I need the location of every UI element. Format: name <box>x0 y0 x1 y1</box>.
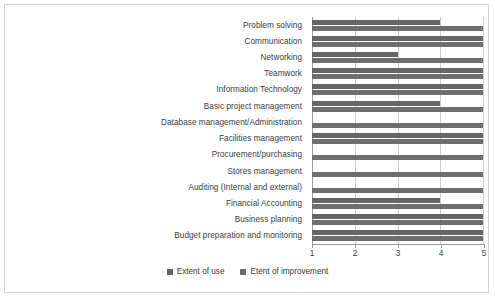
bar-extent-of-improvement <box>312 42 483 47</box>
bar-extent-of-use <box>312 230 483 235</box>
bar-group <box>312 17 483 33</box>
bar-extent-of-use <box>312 20 440 25</box>
bar-extent-of-use <box>312 198 440 203</box>
legend-label: Etent of improvement <box>250 267 328 276</box>
bar-group <box>312 228 483 244</box>
chart-container: Problem solvingCommunicationNetworkingTe… <box>4 4 489 293</box>
category-label: Basic project management <box>204 102 302 111</box>
category-label: Stores management <box>227 167 302 176</box>
bar-extent-of-improvement <box>312 107 483 112</box>
x-tickmark <box>441 244 442 248</box>
category-label-row: Teamwork <box>7 66 307 82</box>
category-label: Information Technology <box>216 85 302 94</box>
category-label: Problem solving <box>243 21 302 30</box>
category-axis-labels: Problem solvingCommunicationNetworkingTe… <box>7 17 307 244</box>
legend-label: Extent of use <box>177 267 225 276</box>
x-tickmark <box>398 244 399 248</box>
bar-group <box>312 147 483 163</box>
bar-group <box>312 49 483 65</box>
bar-group <box>312 131 483 147</box>
category-label-row: Facilities management <box>7 131 307 147</box>
bar-extent-of-improvement <box>312 220 483 225</box>
category-label-row: Information Technology <box>7 82 307 98</box>
category-label-row: Problem solving <box>7 17 307 33</box>
bar-extent-of-improvement <box>312 172 483 177</box>
category-label: Auditing (Internal and external) <box>188 183 302 192</box>
bar-group <box>312 212 483 228</box>
category-label-row: Stores management <box>7 163 307 179</box>
legend-swatch-icon <box>240 269 246 275</box>
chart-legend: Extent of useEtent of improvement <box>5 267 490 276</box>
bar-group <box>312 33 483 49</box>
category-label-row: Basic project management <box>7 98 307 114</box>
bar-extent-of-improvement <box>312 123 483 128</box>
bar-extent-of-use <box>312 101 440 106</box>
x-tickmark <box>484 244 485 248</box>
x-tickmark <box>312 244 313 248</box>
bar-extent-of-use <box>312 36 483 41</box>
bar-groups <box>312 17 483 244</box>
bar-group <box>312 195 483 211</box>
category-label-row: Business planning <box>7 212 307 228</box>
bar-extent-of-improvement <box>312 236 483 241</box>
bar-extent-of-use <box>312 133 483 138</box>
bar-extent-of-use <box>312 52 398 57</box>
plot-area <box>312 17 484 244</box>
category-label: Communication <box>244 37 302 46</box>
category-label: Teamwork <box>264 69 302 78</box>
bar-group <box>312 179 483 195</box>
x-tick-label: 1 <box>310 249 315 258</box>
bar-group <box>312 82 483 98</box>
legend-swatch-icon <box>167 269 173 275</box>
bar-extent-of-improvement <box>312 204 483 209</box>
category-label-row: Networking <box>7 49 307 65</box>
x-tick-label: 4 <box>439 249 444 258</box>
bar-extent-of-improvement <box>312 58 483 63</box>
bar-extent-of-improvement <box>312 188 483 193</box>
bar-extent-of-improvement <box>312 90 483 95</box>
x-axis-tick-labels: 12345 <box>312 249 484 262</box>
category-label: Database management/Administration <box>161 118 302 127</box>
category-label-row: Procurement/purchasing <box>7 147 307 163</box>
category-label-row: Budget preparation and monitoring <box>7 228 307 244</box>
category-label-row: Database management/Administration <box>7 114 307 130</box>
category-label: Financial Accounting <box>226 199 302 208</box>
legend-item[interactable]: Extent of use <box>167 267 225 276</box>
category-label: Budget preparation and monitoring <box>174 231 302 240</box>
legend-item[interactable]: Etent of improvement <box>240 267 328 276</box>
category-label-row: Communication <box>7 33 307 49</box>
bar-group <box>312 114 483 130</box>
category-label: Networking <box>261 53 302 62</box>
gridline <box>483 17 484 244</box>
x-tick-label: 2 <box>353 249 358 258</box>
x-tick-label: 5 <box>482 249 487 258</box>
bar-group <box>312 163 483 179</box>
category-label: Business planning <box>235 215 302 224</box>
bar-extent-of-improvement <box>312 26 483 31</box>
bar-extent-of-use <box>312 84 483 89</box>
category-label: Facilities management <box>219 134 302 143</box>
bar-group <box>312 98 483 114</box>
bar-extent-of-use <box>312 214 483 219</box>
bar-extent-of-improvement <box>312 74 483 79</box>
bar-group <box>312 66 483 82</box>
category-label: Procurement/purchasing <box>212 150 302 159</box>
category-label-row: Auditing (Internal and external) <box>7 179 307 195</box>
bar-extent-of-use <box>312 68 483 73</box>
chart-plot-wrapper: Problem solvingCommunicationNetworkingTe… <box>5 5 490 294</box>
bar-extent-of-improvement <box>312 155 483 160</box>
x-tick-label: 3 <box>396 249 401 258</box>
category-label-row: Financial Accounting <box>7 195 307 211</box>
bar-extent-of-improvement <box>312 139 483 144</box>
x-tickmark <box>355 244 356 248</box>
